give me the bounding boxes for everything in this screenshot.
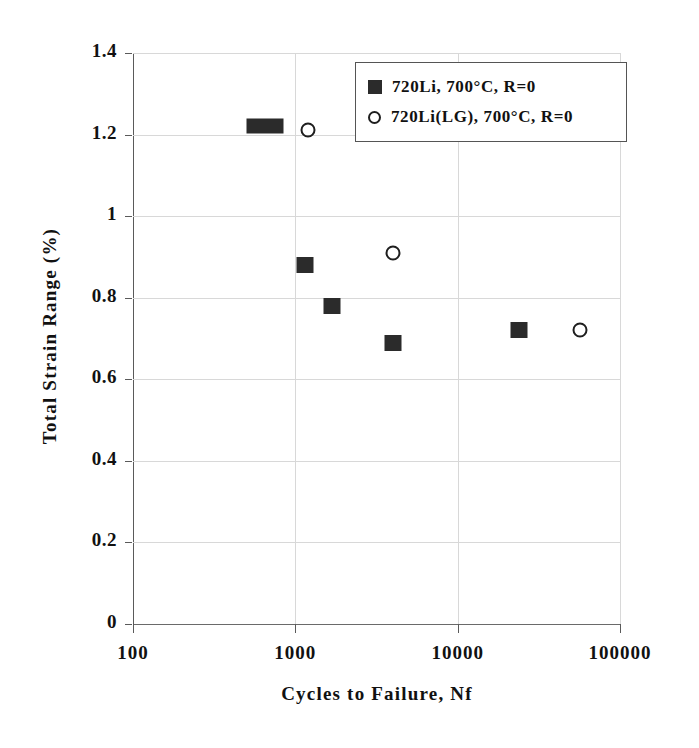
y-axis-tick	[125, 135, 132, 136]
gridline-horizontal	[133, 542, 620, 543]
x-axis-tick	[133, 624, 134, 633]
data-point-square	[385, 335, 402, 351]
gridline-horizontal	[133, 379, 620, 380]
y-axis-tick	[125, 542, 132, 543]
data-point-square	[511, 322, 528, 338]
gridline-horizontal	[133, 53, 620, 54]
data-point-circle	[573, 323, 588, 338]
x-axis-title: Cycles to Failure, Nf	[133, 683, 621, 705]
x-axis-tick-label: 1000	[225, 642, 365, 664]
legend-item-label: 720Li(LG), 700°C, R=0	[391, 107, 573, 127]
gridline-vertical	[295, 53, 296, 624]
gridline-horizontal	[133, 216, 620, 217]
y-axis-tick-label: 1	[7, 203, 117, 225]
y-axis-tick-label: 0	[7, 611, 117, 633]
x-axis-tick	[295, 624, 296, 633]
y-axis-tick-label: 1.4	[7, 40, 117, 62]
legend-item: 720Li, 700°C, R=0	[368, 72, 616, 102]
legend-circle-marker-icon	[368, 111, 381, 124]
gridline-horizontal	[133, 461, 620, 462]
chart-figure: 00.20.40.60.811.21.4 100100010000100000 …	[0, 0, 699, 748]
legend-item: 720Li(LG), 700°C, R=0	[368, 102, 616, 132]
x-axis-tick-label: 10000	[388, 642, 528, 664]
x-axis-tick-label: 100000	[550, 642, 690, 664]
data-point-square	[297, 257, 314, 273]
y-axis-tick-label: 0.8	[7, 285, 117, 307]
y-axis-tick	[125, 298, 132, 299]
x-axis-tick-label: 100	[63, 642, 203, 664]
data-point-square	[323, 298, 340, 314]
y-axis-tick-label: 1.2	[7, 122, 117, 144]
legend-square-marker-icon	[368, 80, 382, 94]
x-axis-tick	[620, 624, 621, 633]
data-point-circle	[386, 245, 401, 260]
y-axis-tick	[125, 379, 132, 380]
y-axis-tick	[125, 216, 132, 217]
y-axis-tick	[125, 53, 132, 54]
legend-item-label: 720Li, 700°C, R=0	[392, 77, 536, 97]
y-axis-tick-label: 0.4	[7, 448, 117, 470]
y-axis-tick-label: 0.2	[7, 529, 117, 551]
x-axis-tick	[458, 624, 459, 633]
data-point-circle	[301, 123, 316, 138]
gridline-horizontal	[133, 298, 620, 299]
y-axis-tick	[125, 624, 132, 625]
chart-legend: 720Li, 700°C, R=0720Li(LG), 700°C, R=0	[355, 62, 627, 142]
y-axis-tick-label: 0.6	[7, 366, 117, 388]
y-axis-tick	[125, 461, 132, 462]
x-axis-line	[133, 624, 621, 625]
data-point-square	[246, 119, 283, 134]
y-axis-title: Total Strain Range (%)	[39, 126, 61, 546]
